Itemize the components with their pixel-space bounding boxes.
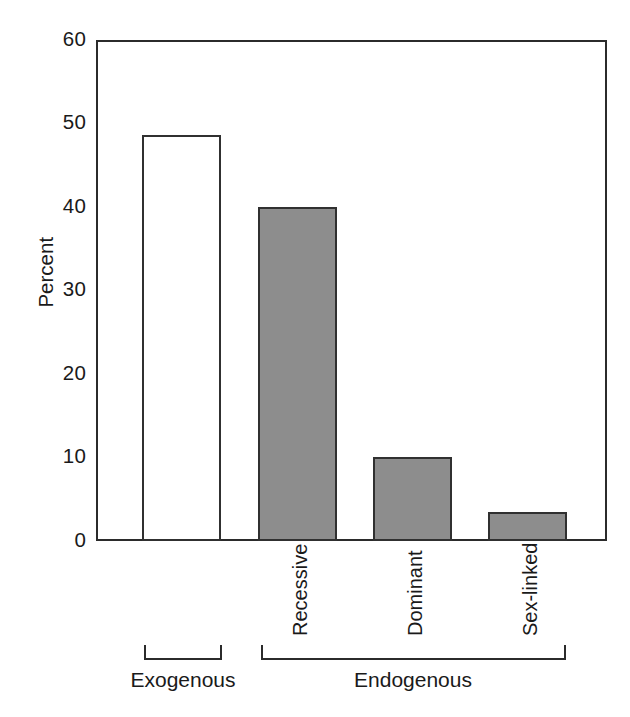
bar-sex-linked[interactable]: [488, 512, 567, 541]
y-tick-label-0-wrap: 0: [8, 530, 86, 552]
y-tick-label-60-wrap: 60: [8, 29, 86, 51]
y-tick-label-10: 10: [14, 446, 86, 467]
y-tick-label-30-wrap: 30: [8, 279, 86, 301]
group-label-endogenous: Endogenous: [333, 669, 493, 690]
bracket-endogenous: [261, 645, 566, 660]
y-tick-label-10-wrap: 10: [8, 446, 86, 468]
y-tick-label-20: 20: [14, 363, 86, 384]
y-tick-label-40-wrap: 40: [8, 196, 86, 218]
y-tick-label-0: 0: [14, 530, 86, 551]
y-tick-label-30: 30: [14, 279, 86, 300]
y-axis-title: Percent: [36, 217, 57, 327]
bar-dominant[interactable]: [373, 457, 452, 541]
bar-exogenous[interactable]: [142, 135, 221, 541]
bar-recessive[interactable]: [258, 207, 337, 541]
category-label-dominant: Dominant: [405, 550, 425, 636]
y-tick-label-20-wrap: 20: [8, 363, 86, 385]
bar-chart-figure: Percent 60 50 40 30 20 10 0 Recessive Do…: [0, 0, 630, 717]
group-label-exogenous: Exogenous: [103, 669, 263, 690]
y-tick-label-50: 50: [14, 112, 86, 133]
category-label-recessive: Recessive: [290, 544, 310, 636]
bracket-exogenous: [144, 645, 222, 660]
y-tick-label-50-wrap: 50: [8, 112, 86, 134]
y-tick-label-40: 40: [14, 196, 86, 217]
y-tick-label-60: 60: [14, 29, 86, 50]
category-label-sex-linked: Sex-linked: [520, 543, 540, 636]
